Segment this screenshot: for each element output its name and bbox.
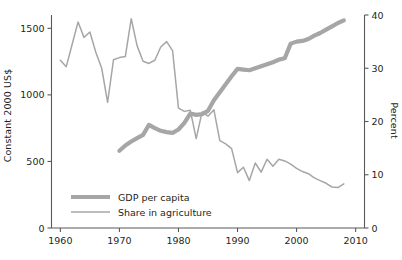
x-axis-tick-label: 1960 (48, 235, 72, 246)
series-line-gdp-per-capita[interactable] (119, 20, 343, 150)
legend-group: GDP per capitaShare in agriculture (71, 192, 212, 218)
y-axis-right-tick-label: 0 (372, 223, 378, 234)
chart-figure: Constant 2000 US$ Percent 19601970198019… (0, 0, 402, 260)
x-axis-tick-label: 2000 (284, 235, 308, 246)
y-axis-left-tick-label: 500 (26, 156, 44, 167)
x-axis-tick-label: 1980 (166, 235, 190, 246)
legend-label-1[interactable]: GDP per capita (118, 192, 190, 203)
series-group (60, 19, 343, 188)
y-axis-left-tick-label: 1500 (20, 23, 44, 34)
y-axis-left-tick-label: 0 (38, 223, 44, 234)
legend-label-2[interactable]: Share in agriculture (118, 207, 212, 218)
y-axis-right-tick-label: 20 (372, 116, 384, 127)
y-axis-right-tick-label: 40 (372, 10, 384, 21)
y-axis-left-tick-label: 1000 (20, 89, 44, 100)
y-axis-right-tick-label: 10 (372, 169, 384, 180)
x-axis-tick-label: 2010 (344, 235, 368, 246)
y-axis-right-tick-label: 30 (372, 63, 384, 74)
x-axis-tick-label: 1970 (107, 235, 131, 246)
x-axis-tick-label: 1990 (225, 235, 249, 246)
plot-area: 1960197019801990200020100500100015000102… (0, 0, 402, 260)
series-line-share-in-agriculture[interactable] (60, 19, 343, 188)
